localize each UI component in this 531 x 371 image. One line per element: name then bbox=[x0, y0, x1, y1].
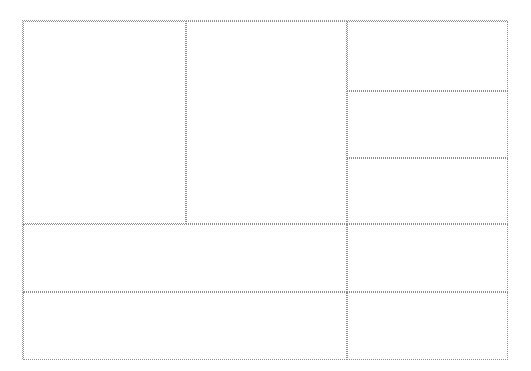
cell-right-5 bbox=[347, 292, 508, 360]
cell-right-2 bbox=[347, 91, 508, 158]
layout-frame bbox=[22, 20, 507, 359]
cell-top-left-tall bbox=[23, 21, 186, 224]
cell-right-4 bbox=[347, 224, 508, 292]
cell-right-3 bbox=[347, 158, 508, 224]
cell-wide-row-1 bbox=[23, 224, 347, 292]
cell-wide-row-2 bbox=[23, 292, 347, 360]
cell-right-1 bbox=[347, 21, 508, 91]
cell-top-middle-tall bbox=[186, 21, 347, 224]
